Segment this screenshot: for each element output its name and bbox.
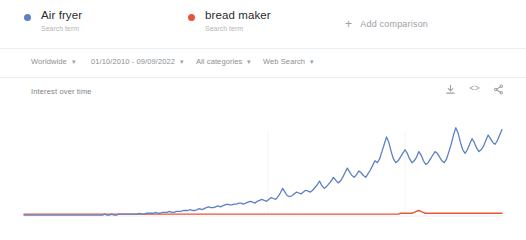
filter-search-type-label: Web Search (263, 57, 305, 66)
download-icon[interactable] (445, 84, 456, 95)
add-comparison-button[interactable]: + Add comparison (345, 18, 428, 30)
search-term-chip-air-fryer[interactable]: Air fryer Search term (24, 10, 82, 32)
filter-location-label: Worldwide (31, 57, 67, 66)
plus-icon: + (345, 18, 352, 30)
search-term-chip-bread-maker[interactable]: bread maker Search term (188, 10, 271, 32)
chevron-down-icon: ▾ (180, 58, 184, 65)
trends-chart-svg (0, 104, 526, 240)
filter-category-label: All categories (196, 57, 242, 66)
search-term-subtitle: Search term (205, 25, 271, 32)
card-title: Interest over time (31, 87, 92, 96)
search-term-text: Air fryer Search term (41, 10, 82, 32)
search-term-title: bread maker (205, 10, 271, 22)
filter-date-range-label: 01/10/2010 - 09/09/2022 (91, 57, 175, 66)
embed-icon[interactable]: <> (469, 84, 480, 95)
filter-location[interactable]: Worldwide ▾ (31, 57, 76, 66)
legend-dot-blue-icon (24, 14, 31, 21)
chevron-down-icon: ▾ (72, 58, 76, 65)
series-line-air-fryer (24, 128, 502, 215)
card-actions: <> (445, 84, 504, 95)
add-comparison-label: Add comparison (360, 19, 428, 29)
interest-over-time-card: Interest over time <> (0, 78, 526, 240)
filter-category[interactable]: All categories ▾ (196, 57, 252, 66)
search-term-title: Air fryer (41, 10, 82, 22)
card-header: Interest over time <> (0, 78, 526, 104)
search-terms-row: Air fryer Search term bread maker Search… (0, 0, 526, 48)
filter-search-type[interactable]: Web Search ▾ (263, 57, 314, 66)
legend-dot-red-icon (188, 14, 195, 21)
series-line-bread-maker (24, 210, 502, 214)
filter-date-range[interactable]: 01/10/2010 - 09/09/2022 ▾ (91, 57, 184, 66)
search-term-subtitle: Search term (41, 25, 82, 32)
chevron-down-icon: ▾ (310, 58, 314, 65)
filter-bar: Worldwide ▾ 01/10/2010 - 09/09/2022 ▾ Al… (0, 48, 526, 78)
search-term-text: bread maker Search term (205, 10, 271, 32)
share-icon[interactable] (493, 84, 504, 95)
trends-chart[interactable] (0, 104, 526, 240)
chevron-down-icon: ▾ (247, 58, 251, 65)
